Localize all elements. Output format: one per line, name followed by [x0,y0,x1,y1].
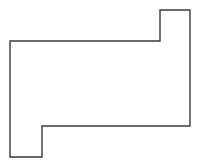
polygon-drawing [0,0,199,168]
orthogonal-polygon-outline [10,10,190,157]
figure-canvas [0,0,199,168]
